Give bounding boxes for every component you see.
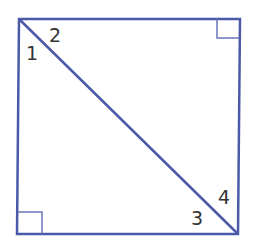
angle-label-4: 4 <box>218 186 230 208</box>
angle-label-2: 2 <box>49 24 61 46</box>
diagram-canvas: 1 2 3 4 <box>0 0 255 250</box>
right-angle-marker-top-right <box>217 19 239 38</box>
angle-label-1: 1 <box>26 42 38 64</box>
diagonal-line <box>19 19 238 234</box>
right-angle-marker-bottom-left <box>18 212 42 234</box>
angle-label-3: 3 <box>191 207 203 229</box>
